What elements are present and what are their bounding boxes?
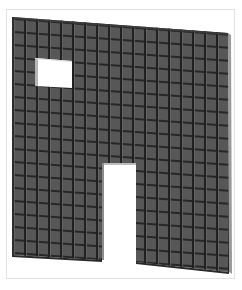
door-opening bbox=[102, 163, 136, 260]
wall-body bbox=[0, 0, 242, 290]
window-opening bbox=[35, 58, 72, 88]
wall-left-edge bbox=[12, 17, 14, 255]
wall-panel-render bbox=[0, 0, 242, 290]
